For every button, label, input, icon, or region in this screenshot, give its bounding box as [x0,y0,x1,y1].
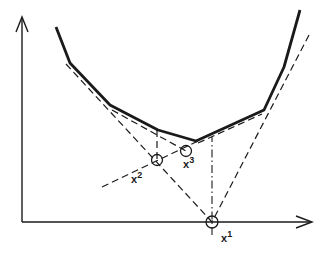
axes [16,17,312,228]
label-x2: x2 [131,170,142,185]
label-x1: x1 [221,229,232,244]
convex-function-curve [56,10,300,141]
diagram-canvas: x1 x2 x3 [0,0,326,254]
right-parallel-segment [198,114,262,143]
label-x3: x3 [183,155,194,170]
cutting-planes [66,35,309,222]
left-tangent-line [66,64,212,222]
cut-line-through-x3 [112,110,186,151]
